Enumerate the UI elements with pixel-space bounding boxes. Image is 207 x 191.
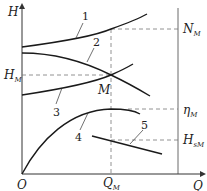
origin-label: O xyxy=(17,178,27,191)
pump-characteristic-diagram: 1 2 3 4 5 H Q O M HM QM NM ηM HsM xyxy=(0,0,207,191)
hm-label: HM xyxy=(3,68,22,84)
nm-label: NM xyxy=(182,22,202,38)
hsm-label: HsM xyxy=(182,133,205,149)
curve-label-5: 5 xyxy=(141,119,148,132)
x-axis-label: Q xyxy=(193,179,203,191)
leader-5 xyxy=(130,130,143,144)
y-axis-label: H xyxy=(7,5,19,19)
curve-label-3: 3 xyxy=(53,106,60,119)
curve-2 xyxy=(22,53,150,96)
leader-1 xyxy=(76,23,83,38)
curve-5 xyxy=(92,136,162,154)
curve-label-2: 2 xyxy=(93,36,100,49)
point-m-label: M xyxy=(97,83,111,97)
curve-label-1: 1 xyxy=(82,10,89,23)
etam-label: ηM xyxy=(183,103,198,119)
qm-label: QM xyxy=(103,176,121,191)
leader-2 xyxy=(87,48,94,62)
curve-label-4: 4 xyxy=(75,131,82,144)
leader-3 xyxy=(56,88,62,104)
curve-3 xyxy=(22,64,133,95)
